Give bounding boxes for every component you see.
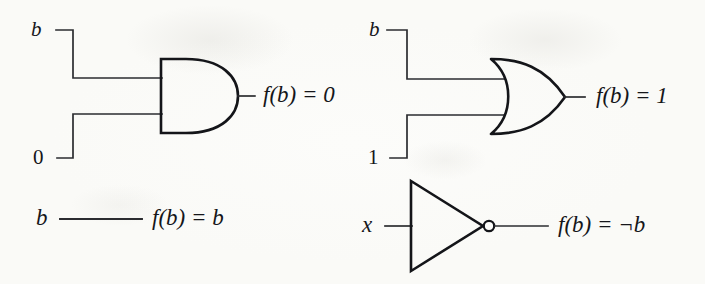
and-gate-diagram: [56, 30, 255, 158]
or-input-b-wire: [387, 30, 505, 79]
not-gate-triangle: [411, 181, 483, 271]
logic-gate-figure: b 0 f(b) = 0 b 1 f(b) = 1 b f(b) = b x f…: [0, 0, 705, 284]
and-gate-body: [161, 59, 238, 133]
or-input-1-label: 1: [368, 147, 379, 168]
or-input-b-label: b: [369, 19, 380, 40]
and-input-0-wire: [57, 114, 162, 158]
and-input-0-label: 0: [33, 147, 44, 168]
or-output-label: f(b) = 1: [596, 84, 668, 107]
circuit-diagram-canvas: [0, 0, 705, 284]
and-input-b-label: b: [31, 19, 42, 40]
not-gate-bubble: [484, 221, 494, 231]
identity-input-b-label: b: [36, 206, 48, 229]
not-gate-diagram: [385, 181, 548, 271]
identity-output-label: f(b) = b: [152, 206, 224, 229]
or-gate-diagram: [387, 30, 585, 158]
and-input-b-wire: [56, 30, 162, 78]
not-output-label: f(b) = ¬b: [558, 213, 645, 236]
and-output-label: f(b) = 0: [263, 83, 335, 106]
or-gate-body: [491, 59, 565, 134]
not-input-x-label: x: [362, 213, 372, 236]
or-input-1-wire: [390, 115, 505, 158]
